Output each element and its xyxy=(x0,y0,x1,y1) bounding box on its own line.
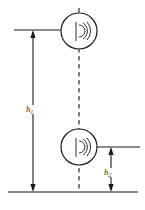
dimension-h1-arrowhead-bottom xyxy=(30,184,35,192)
dimension-label-h2-subscript: 2 xyxy=(108,172,111,178)
dimension-label-h1: h1 xyxy=(25,105,34,114)
dimension-h2-arrowhead-bottom xyxy=(108,184,113,192)
dimension-label-h1-subscript: 1 xyxy=(30,109,33,115)
dimension-h2-arrowhead-top xyxy=(108,147,113,155)
diagram-canvas xyxy=(0,0,145,210)
figure-container: h1 h2 xyxy=(0,0,145,210)
dimension-h1-arrowhead-top xyxy=(30,30,35,38)
emitter-upper-circle xyxy=(61,13,97,49)
emitter-upper xyxy=(61,13,97,49)
dimension-label-h2: h2 xyxy=(103,168,112,177)
emitter-lower-circle xyxy=(61,129,97,165)
emitter-lower xyxy=(61,129,97,165)
